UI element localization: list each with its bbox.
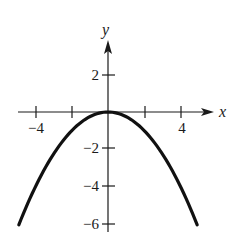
x-tick-label-neg4: −4	[28, 120, 44, 136]
y-tick-label-neg4: −4	[83, 178, 99, 194]
x-axis-label: x	[218, 103, 226, 120]
y-tick-label-neg2: −2	[83, 140, 99, 156]
y-tick-label-2: 2	[92, 67, 100, 83]
x-tick-label-4: 4	[178, 120, 186, 136]
y-axis: y 2 −2 −4 −6	[83, 21, 115, 232]
y-tick-label-neg6: −6	[83, 216, 99, 232]
parabola-graph: x −4 4 y 2 −2 −4 −6	[0, 0, 244, 232]
x-axis: x −4 4	[18, 103, 226, 136]
y-axis-label: y	[100, 21, 110, 39]
